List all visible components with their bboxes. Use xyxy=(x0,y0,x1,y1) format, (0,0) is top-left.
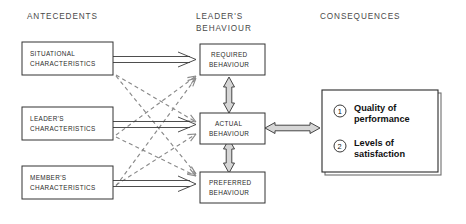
solid-arrow-situational-to-required xyxy=(113,52,196,67)
box-required-behaviour-line2: BEHAVIOUR xyxy=(209,61,249,68)
column-heading-consequences: CONSEQUENCES xyxy=(320,12,400,21)
box-leaders-characteristics-line2: CHARACTERISTICS xyxy=(30,125,96,132)
box-actual-behaviour-line1: ACTUAL xyxy=(215,120,242,127)
consequences-item-1-number: 1 xyxy=(338,107,342,116)
dashed-arrow-members-to-actual xyxy=(116,134,196,185)
box-preferred-behaviour-line1: PREFERRED xyxy=(209,179,252,186)
vertical-arrow-required-actual xyxy=(224,77,235,113)
box-preferred-behaviour-line2: BEHAVIOUR xyxy=(209,189,249,196)
dashed-arrow-leaders-to-required xyxy=(116,76,196,135)
box-members-characteristics[interactable]: MEMBER'S CHARACTERISTICS xyxy=(22,166,113,199)
box-situational-characteristics[interactable]: SITUATIONAL CHARACTERISTICS xyxy=(22,42,113,75)
box-actual-behaviour-line2: BEHAVIOUR xyxy=(209,130,249,137)
box-required-behaviour[interactable]: REQUIRED BEHAVIOUR xyxy=(200,44,265,75)
box-consequences[interactable]: 1 Quality of performance 2 Levels of sat… xyxy=(322,90,441,175)
box-members-characteristics-line2: CHARACTERISTICS xyxy=(30,184,96,191)
dashed-arrow-situational-to-preferred xyxy=(116,76,196,174)
column-heading-antecedents: ANTECEDENTS xyxy=(27,12,98,21)
box-preferred-behaviour[interactable]: PREFERRED BEHAVIOUR xyxy=(200,172,265,203)
dashed-arrow-situational-to-actual xyxy=(116,75,196,122)
box-situational-characteristics-line1: SITUATIONAL xyxy=(30,50,75,57)
consequences-item-1-line1: Quality of xyxy=(354,103,397,113)
box-members-characteristics-line1: MEMBER'S xyxy=(30,174,66,181)
box-required-behaviour-line1: REQUIRED xyxy=(211,51,248,59)
consequences-item-1-line2: performance xyxy=(354,114,410,124)
box-situational-characteristics-line2: CHARACTERISTICS xyxy=(30,60,96,67)
horizontal-arrow-actual-to-consequences xyxy=(265,123,320,134)
box-actual-behaviour[interactable]: ACTUAL BEHAVIOUR xyxy=(200,113,265,144)
leadership-model-diagram: ANTECEDENTS LEADER'S BEHAVIOUR CONSEQUEN… xyxy=(0,0,466,224)
consequences-item-2-line2: satisfaction xyxy=(354,149,405,159)
box-leaders-characteristics[interactable]: LEADER'S CHARACTERISTICS xyxy=(22,107,113,140)
solid-arrow-members-to-preferred xyxy=(113,176,196,192)
solid-arrow-leaders-to-actual xyxy=(113,117,196,132)
box-leaders-characteristics-line1: LEADER'S xyxy=(30,115,64,122)
consequences-item-2-number: 2 xyxy=(338,142,342,151)
column-heading-leaders-behaviour-line2: BEHAVIOUR xyxy=(196,24,252,33)
diagram-page: ANTECEDENTS LEADER'S BEHAVIOUR CONSEQUEN… xyxy=(0,0,466,224)
consequences-item-2-line1: Levels of xyxy=(354,138,395,148)
column-heading-leaders-behaviour-line1: LEADER'S xyxy=(196,12,243,21)
dashed-arrow-leaders-to-preferred xyxy=(116,137,196,176)
